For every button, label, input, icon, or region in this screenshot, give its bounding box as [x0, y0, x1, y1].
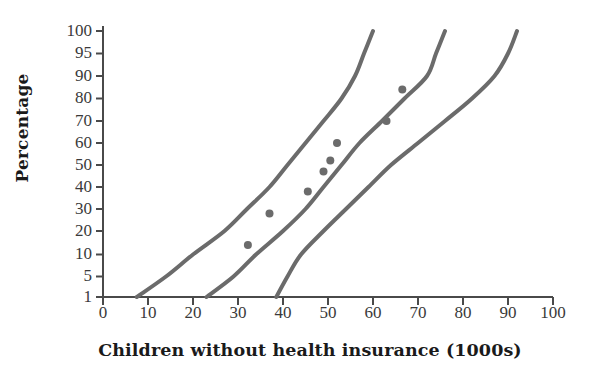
fitted-line — [207, 31, 446, 297]
data-point — [326, 157, 334, 165]
scatter-chart: Percentage 100 95 90 80 70 60 50 40 30 2… — [0, 0, 591, 379]
curve-lines — [137, 31, 517, 297]
data-point — [304, 187, 312, 195]
data-point — [383, 117, 391, 125]
axis-lines — [96, 26, 553, 305]
data-point — [266, 209, 274, 217]
data-point — [333, 139, 341, 147]
data-points — [244, 86, 406, 250]
data-point — [398, 86, 406, 94]
plot-area — [0, 0, 591, 379]
data-point — [244, 241, 252, 249]
data-point — [320, 168, 328, 176]
upper-confidence-band — [276, 31, 517, 297]
